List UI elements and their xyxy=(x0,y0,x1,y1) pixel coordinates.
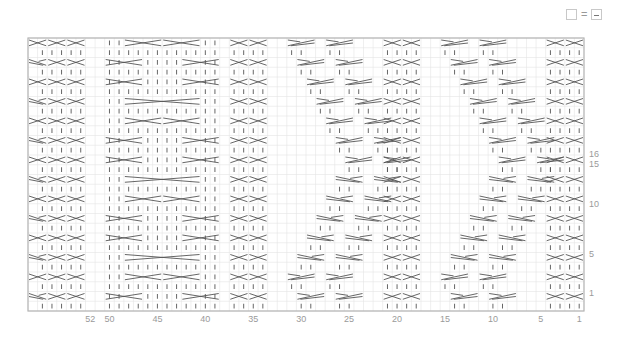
row-label: 5 xyxy=(589,250,594,259)
column-label: 40 xyxy=(200,315,210,324)
column-label: 30 xyxy=(296,315,306,324)
column-label: 10 xyxy=(488,315,498,324)
row-label: 1 xyxy=(589,289,594,298)
row-label: 16 xyxy=(589,150,599,159)
knitting-chart xyxy=(0,0,628,342)
column-label: 15 xyxy=(440,315,450,324)
column-label: 50 xyxy=(104,315,114,324)
column-label: 25 xyxy=(344,315,354,324)
row-label: 10 xyxy=(589,200,599,209)
row-label: 15 xyxy=(589,160,599,169)
column-label: 52 xyxy=(85,315,95,324)
column-label: 1 xyxy=(577,315,582,324)
column-label: 35 xyxy=(248,315,258,324)
column-label: 45 xyxy=(152,315,162,324)
column-label: 20 xyxy=(392,315,402,324)
column-label: 5 xyxy=(538,315,543,324)
